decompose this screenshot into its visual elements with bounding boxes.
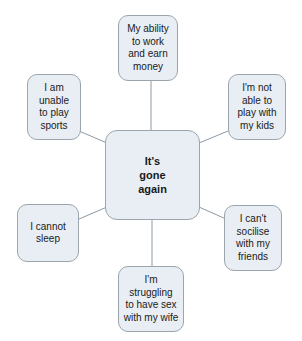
connector-center-to-bottom-left <box>79 207 107 219</box>
branch-node-top-label: My ability to work and earn money <box>125 23 171 73</box>
branch-node-top-left-label: I am unable to play sports <box>37 82 71 132</box>
center-node-label: It's gone again <box>136 154 169 196</box>
branch-node-bottom-right-label: I can't socilise with my friends <box>234 213 272 263</box>
connector-center-to-top-right <box>199 131 228 143</box>
mind-map-diagram: My ability to work and earn money I am u… <box>0 0 302 341</box>
branch-node-top-right[interactable]: I'm not able to play with my kids <box>228 74 286 140</box>
branch-node-bottom-left-label: I cannot sleep <box>28 221 68 246</box>
branch-node-bottom-right[interactable]: I can't socilise with my friends <box>224 205 282 271</box>
branch-node-bottom-label: I'm struggling to have sex with my wife <box>122 274 180 324</box>
branch-node-top-left[interactable]: I am unable to play sports <box>27 74 81 140</box>
connector-center-to-bottom-right <box>199 207 226 219</box>
center-node[interactable]: It's gone again <box>105 130 200 220</box>
branch-node-top[interactable]: My ability to work and earn money <box>118 15 178 81</box>
connector-center-to-top-left <box>79 131 107 143</box>
branch-node-top-right-label: I'm not able to play with my kids <box>236 82 279 132</box>
branch-node-bottom-left[interactable]: I cannot sleep <box>17 204 79 262</box>
branch-node-bottom[interactable]: I'm struggling to have sex with my wife <box>118 266 184 332</box>
